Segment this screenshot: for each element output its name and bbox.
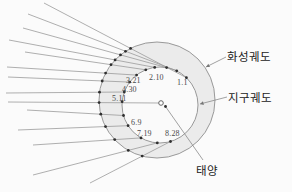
- mars-position-dot: [99, 113, 102, 116]
- date-label: 5.11: [112, 94, 127, 103]
- mars-orbit-label: 화성궤도: [227, 51, 271, 63]
- mars-position-dot: [119, 54, 122, 57]
- mars-position-dot: [101, 80, 104, 83]
- date-label: 2.10: [149, 73, 164, 82]
- date-label: 1.1: [177, 78, 188, 87]
- mars-position-dot: [104, 125, 107, 128]
- retrograde-motion-figure: 1.12.103.214.305.116.97.198.28화성궤도지구궤도태양: [0, 0, 292, 192]
- earth-position-dot: [127, 124, 130, 127]
- earth-position-dot: [165, 66, 168, 69]
- earth-position-dot: [175, 69, 178, 72]
- earth-position-dot: [169, 140, 172, 143]
- date-label: 3.21: [126, 76, 141, 85]
- date-label: 4.30: [122, 85, 137, 94]
- earth-position-dot: [122, 114, 125, 117]
- mars-position-dot: [104, 72, 107, 75]
- mars-position-dot: [110, 63, 113, 66]
- sun-icon: [159, 101, 164, 106]
- date-label: 6.9: [131, 118, 142, 127]
- earth-position-dot: [144, 68, 147, 71]
- sight-line: [33, 143, 157, 175]
- mars-position-dot: [141, 155, 144, 158]
- mars-position-dot: [114, 59, 117, 62]
- mars-position-dot: [129, 47, 132, 50]
- mars-position-dot: [98, 91, 101, 94]
- date-label: 7.19: [137, 129, 152, 138]
- mars-position-dot: [98, 101, 101, 104]
- orbit-diagram: 1.12.103.214.305.116.97.198.28화성궤도지구궤도태양: [0, 0, 292, 192]
- mars-position-dot: [113, 138, 116, 141]
- earth-position-dot: [156, 142, 159, 145]
- earth-position-dot: [153, 66, 156, 69]
- earth-orbit-label: 지구궤도: [228, 92, 272, 104]
- sun-label: 태양: [196, 165, 218, 177]
- mars-position-dot: [124, 50, 127, 53]
- mars-position-dot: [127, 149, 130, 152]
- date-label: 8.28: [165, 129, 180, 138]
- sun-leader-dot: [164, 105, 167, 108]
